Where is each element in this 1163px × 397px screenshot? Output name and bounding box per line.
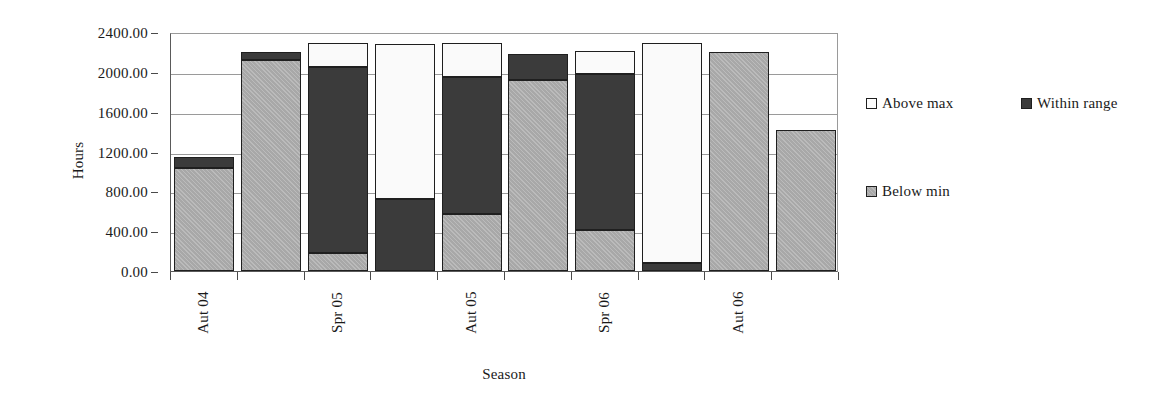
bar-segment[interactable] — [508, 80, 568, 271]
legend-item[interactable]: Above max — [866, 95, 953, 112]
y-tick-label: 1200.00 — [98, 145, 148, 160]
x-tick-mark — [437, 272, 438, 280]
bar-segment[interactable] — [442, 43, 502, 77]
legend-swatch-within-range-icon — [1021, 98, 1032, 109]
bar-column[interactable] — [776, 32, 836, 271]
legend-item-label: Below min — [882, 183, 950, 200]
bar-segment[interactable] — [174, 157, 234, 168]
y-tick-label: 0.00 — [121, 265, 148, 280]
x-tick-mark — [370, 272, 371, 280]
x-tick-mark — [838, 272, 839, 280]
y-tick-label: 2400.00 — [98, 26, 148, 41]
chart-legend: Above maxWithin rangeBelow min — [866, 95, 1156, 225]
x-tick-label: Aut 05 — [462, 278, 479, 348]
bar-column[interactable] — [375, 32, 435, 271]
stacked-bar-chart: Hours 0.00400.00800.001200.001600.002000… — [0, 0, 1163, 397]
bar-column[interactable] — [308, 32, 368, 271]
x-tick-label: Aut 04 — [195, 278, 212, 348]
bar-column[interactable] — [575, 32, 635, 271]
bar-segment[interactable] — [308, 43, 368, 67]
legend-item-label: Above max — [882, 95, 953, 112]
legend-item-label: Within range — [1037, 95, 1118, 112]
bar-column[interactable] — [442, 32, 502, 271]
x-tick-label: Spr 05 — [329, 278, 346, 348]
bar-segment[interactable] — [709, 52, 769, 271]
x-tick-mark — [237, 272, 238, 280]
bar-segment[interactable] — [642, 43, 702, 263]
bar-column[interactable] — [642, 32, 702, 271]
y-tick-label: 400.00 — [106, 225, 148, 240]
legend-swatch-below-min-icon — [866, 186, 877, 197]
bar-segment[interactable] — [508, 54, 568, 80]
bar-segment[interactable] — [575, 51, 635, 74]
bar-column[interactable] — [241, 32, 301, 271]
x-axis-title: Season — [170, 366, 838, 383]
legend-swatch-above-max-icon — [866, 98, 877, 109]
x-tick-mark — [771, 272, 772, 280]
bar-column[interactable] — [709, 32, 769, 271]
bar-column[interactable] — [508, 32, 568, 271]
bar-segment[interactable] — [375, 199, 435, 271]
x-tick-mark — [504, 272, 505, 280]
bar-segment[interactable] — [776, 130, 836, 271]
x-tick-mark — [170, 272, 171, 280]
legend-item[interactable]: Below min — [866, 183, 950, 200]
bar-segment[interactable] — [442, 77, 502, 214]
bar-column[interactable] — [174, 32, 234, 271]
bar-segment[interactable] — [375, 44, 435, 199]
bar-segment[interactable] — [241, 60, 301, 271]
bar-segment[interactable] — [575, 74, 635, 230]
y-tick-mark — [151, 113, 158, 114]
y-tick-label: 1600.00 — [98, 105, 148, 120]
x-axis-labels: Aut 04Spr 05Aut 05Spr 06Aut 06 — [170, 282, 838, 352]
y-tick-mark — [151, 73, 158, 74]
bar-segment[interactable] — [174, 168, 234, 271]
plot-area — [170, 33, 838, 272]
bar-segment[interactable] — [308, 253, 368, 271]
x-tick-label: Aut 06 — [729, 278, 746, 348]
y-axis-ticks: 0.00400.00800.001200.001600.002000.00240… — [42, 33, 158, 272]
bar-segment[interactable] — [642, 263, 702, 271]
y-tick-mark — [151, 232, 158, 233]
bar-segment[interactable] — [241, 52, 301, 60]
x-tick-mark — [304, 272, 305, 280]
y-tick-mark — [151, 33, 158, 34]
bar-segment[interactable] — [308, 67, 368, 253]
y-tick-label: 800.00 — [106, 185, 148, 200]
y-tick-mark — [151, 192, 158, 193]
x-tick-mark — [638, 272, 639, 280]
bars-layer — [171, 34, 837, 271]
bar-segment[interactable] — [575, 230, 635, 271]
x-tick-mark — [571, 272, 572, 280]
x-tick-label: Spr 06 — [596, 278, 613, 348]
x-tick-mark — [704, 272, 705, 280]
y-tick-mark — [151, 153, 158, 154]
y-tick-mark — [151, 272, 158, 273]
bar-segment[interactable] — [442, 214, 502, 271]
y-tick-label: 2000.00 — [98, 65, 148, 80]
legend-item[interactable]: Within range — [1021, 95, 1118, 112]
